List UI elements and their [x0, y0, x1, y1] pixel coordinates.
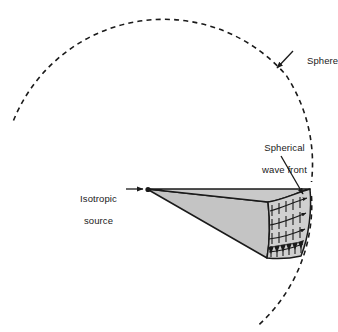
sphere-label-text: Sphere [307, 55, 338, 66]
sphere-pointer [277, 51, 293, 68]
wave-front-label-line1: Spherical [264, 142, 305, 153]
spherical-wavefront-diagram: Sphere Spherical wave front Isotropic so… [0, 0, 338, 332]
isotropic-source-label: Isotropic source [62, 182, 124, 237]
isotropic-source-point [145, 187, 150, 192]
source-label-line2: source [84, 215, 113, 226]
wave-front-label-line2: wave front [262, 164, 307, 175]
source-label-line1: Isotropic [80, 193, 117, 204]
sphere-label: Sphere [296, 44, 338, 77]
spherical-wave-front-label: Spherical wave front [251, 131, 307, 186]
